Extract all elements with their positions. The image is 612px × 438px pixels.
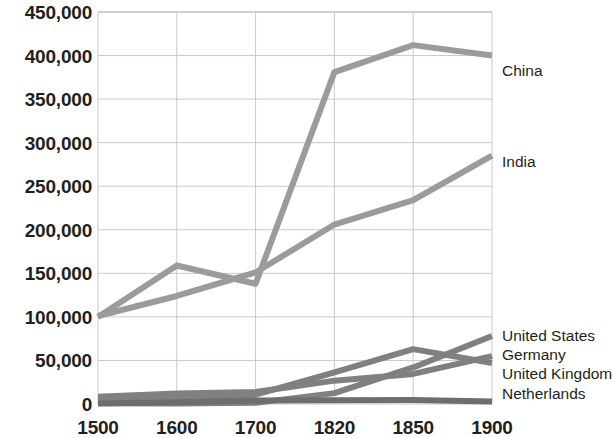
series-label-united-states: United States [502, 328, 595, 344]
x-axis-tick-label: 1700 [235, 418, 276, 437]
x-axis-tick-label: 1820 [314, 418, 355, 437]
series-label-netherlands: Netherlands [502, 386, 586, 402]
x-axis-tick-label: 1850 [392, 418, 433, 437]
x-axis-tick-label: 1500 [77, 418, 118, 437]
series-label-india: India [502, 154, 536, 170]
series-label-china: China [502, 63, 543, 79]
series-label-united-kingdom: United Kingdom [502, 366, 612, 382]
x-axis-tick-label: 1900 [471, 418, 512, 437]
series-label-germany: Germany [502, 347, 566, 363]
x-axis-tick-label: 1600 [156, 418, 197, 437]
